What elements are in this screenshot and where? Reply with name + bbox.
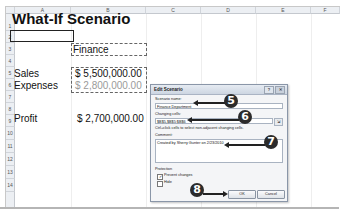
cell-b5[interactable]: $ 5,500,000.00 [75,68,142,79]
dialog-titlebar[interactable]: Edit Scenario ? ✕ [151,85,287,95]
cell-a6[interactable]: Expenses [14,80,58,91]
callout-8: 8 [190,183,204,197]
active-cell-a2[interactable] [10,30,74,42]
prevent-changes-label: Prevent changes [164,173,193,177]
arrow-7-icon [228,144,265,146]
callout-7: 7 [264,135,278,149]
column-header-e[interactable]: E [256,7,311,14]
protection-label: Protection [155,167,172,171]
changing-cells-label: Changing cells: [155,112,181,116]
help-button[interactable]: ? [264,86,274,94]
cell-b3[interactable]: Finance [73,44,109,55]
arrow-6-icon [191,119,239,121]
column-header-d[interactable]: D [201,7,256,14]
hide-checkbox[interactable] [157,181,163,187]
column-header-f[interactable]: F [311,7,340,14]
ok-button[interactable]: OK [228,190,256,199]
row-header-10[interactable]: 10 [6,127,15,140]
row-header-7[interactable]: 7 [6,91,15,103]
scenario-name-label: Scenario name: [155,97,182,101]
hide-label: Hide [164,180,172,184]
callout-5: 5 [224,94,238,108]
cell-a8[interactable]: Profit [14,113,37,124]
column-header-c[interactable]: C [146,7,201,14]
dialog-title: Edit Scenario [154,87,183,92]
arrow-8-icon [203,193,223,195]
arrow-8-head-icon [223,191,228,197]
callout-6: 6 [238,110,252,124]
collapse-dialog-button[interactable]: ⇲ [274,118,283,126]
gridline [311,14,312,208]
row-header-13[interactable]: 13 [6,166,15,179]
sheet-bottom-border [0,207,339,209]
arrow-5-icon [197,102,225,104]
row-header-4[interactable]: 4 [6,55,15,67]
row-header-11[interactable]: 11 [6,140,15,153]
prevent-changes-checkbox[interactable]: ✓ [157,174,163,180]
cell-b6[interactable]: $ 2,800,000.00 [75,80,142,91]
sheet-title-cell-a1[interactable]: What-If Scenario [12,10,130,27]
close-button[interactable]: ✕ [275,86,285,94]
row-header-14[interactable]: 14 [6,179,15,192]
changing-cells-hint: Ctrl+click cells to select non-adjacent … [155,126,244,130]
checkmark-icon: ✓ [159,174,162,179]
cell-b8[interactable]: $ 2,700,000.00 [77,113,144,124]
cell-a5[interactable]: Sales [14,68,39,79]
cancel-button[interactable]: Cancel [257,190,285,199]
row-header-15[interactable] [6,192,15,208]
row-header-12[interactable]: 12 [6,153,15,166]
range-select-icon: ⇲ [277,119,280,124]
comment-label: Comment: [155,133,173,137]
row-header-3[interactable]: 3 [6,43,15,55]
